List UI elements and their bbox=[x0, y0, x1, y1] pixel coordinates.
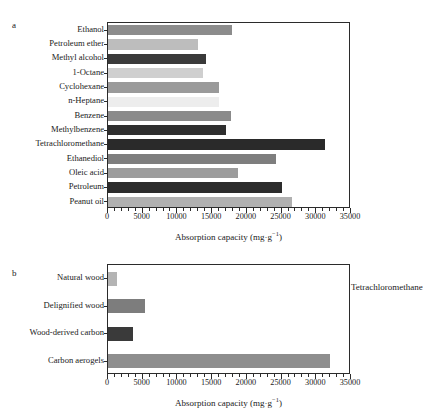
bar-row bbox=[108, 272, 349, 286]
category-label: Natural wood bbox=[57, 273, 104, 282]
x-axis-tick-label: 25000 bbox=[270, 379, 290, 387]
x-axis-tick-label: 20000 bbox=[236, 213, 256, 221]
bar-row bbox=[108, 111, 349, 121]
x-axis-minor-tick bbox=[183, 374, 184, 377]
x-axis-minor-tick bbox=[288, 374, 289, 377]
x-axis-minor-tick bbox=[239, 208, 240, 211]
bar-row bbox=[108, 68, 349, 78]
panel-b-x-axis-title-exponent: −1 bbox=[272, 396, 279, 403]
x-axis-minor-tick bbox=[149, 374, 150, 377]
bar-row bbox=[108, 168, 349, 178]
x-axis-minor-tick bbox=[232, 374, 233, 377]
x-axis-minor-tick bbox=[294, 374, 295, 377]
panel-a-x-axis-title-close: ) bbox=[279, 232, 282, 242]
x-axis-tick-label: 10000 bbox=[166, 379, 186, 387]
category-label: Carbon aerogels bbox=[48, 356, 104, 365]
x-axis-minor-tick bbox=[232, 208, 233, 211]
bar bbox=[108, 197, 292, 207]
x-axis-tick-label: 5000 bbox=[134, 379, 150, 387]
y-axis-tick bbox=[104, 158, 108, 159]
x-axis-minor-tick bbox=[267, 208, 268, 211]
category-label: Peanut oil bbox=[69, 197, 104, 206]
category-label: n-Heptane bbox=[68, 96, 104, 105]
x-axis-tick-label: 35000 bbox=[340, 213, 360, 221]
x-axis-minor-tick bbox=[336, 208, 337, 211]
x-axis-minor-tick bbox=[163, 374, 164, 377]
x-axis-minor-tick bbox=[322, 208, 323, 211]
x-axis-minor-tick bbox=[128, 208, 129, 211]
x-axis-tick-label: 25000 bbox=[270, 213, 290, 221]
bar bbox=[108, 111, 231, 121]
bar bbox=[108, 68, 203, 78]
bar bbox=[108, 97, 219, 107]
x-axis-minor-tick bbox=[183, 208, 184, 211]
x-axis-minor-tick bbox=[121, 374, 122, 377]
panel-b-bars bbox=[108, 265, 349, 373]
y-axis-tick bbox=[104, 173, 108, 174]
x-axis-minor-tick bbox=[274, 208, 275, 211]
x-axis-minor-tick bbox=[149, 208, 150, 211]
category-label: Methyl alcohol bbox=[52, 53, 104, 62]
bar bbox=[108, 154, 276, 164]
x-axis-minor-tick bbox=[301, 374, 302, 377]
x-axis-minor-tick bbox=[197, 208, 198, 211]
x-axis-tick-label: 30000 bbox=[305, 213, 325, 221]
category-label: Oleic acid bbox=[69, 168, 104, 177]
bar bbox=[108, 82, 219, 92]
x-axis-minor-tick bbox=[329, 374, 330, 377]
bar-row bbox=[108, 82, 349, 92]
x-axis-minor-tick bbox=[253, 208, 254, 211]
category-label: Wood-derived carbon bbox=[30, 328, 104, 337]
bar-row bbox=[108, 97, 349, 107]
bar bbox=[108, 182, 282, 192]
x-axis-minor-tick bbox=[163, 208, 164, 211]
category-label: Benzene bbox=[74, 111, 104, 120]
panel-b: b Natural woodDelignified woodWood-deriv… bbox=[0, 252, 383, 413]
x-axis-tick-label: 15000 bbox=[201, 379, 221, 387]
category-label: 1-Octane bbox=[73, 68, 105, 77]
x-axis-minor-tick bbox=[260, 374, 261, 377]
bar bbox=[108, 39, 198, 49]
x-axis-minor-tick bbox=[239, 374, 240, 377]
y-axis-tick bbox=[104, 58, 108, 59]
y-axis-tick bbox=[104, 30, 108, 31]
x-axis-minor-tick bbox=[260, 208, 261, 211]
panel-a-x-axis-title: Absorption capacity (mg·g−1) bbox=[107, 231, 350, 242]
panel-b-x-axis-title-main: Absorption capacity (mg·g bbox=[175, 398, 272, 408]
category-label: Petroleum ether bbox=[49, 39, 104, 48]
bar-row bbox=[108, 299, 349, 313]
x-axis-minor-tick bbox=[343, 208, 344, 211]
bar bbox=[108, 327, 133, 341]
x-axis-minor-tick bbox=[204, 374, 205, 377]
x-axis-minor-tick bbox=[267, 374, 268, 377]
x-axis-minor-tick bbox=[218, 374, 219, 377]
y-axis-tick bbox=[104, 44, 108, 45]
x-axis-minor-tick bbox=[343, 374, 344, 377]
category-label: Delignified wood bbox=[44, 301, 104, 310]
x-axis-minor-tick bbox=[253, 374, 254, 377]
panel-a-x-axis-labels: 05000100001500020000250003000035000 bbox=[0, 213, 383, 225]
y-axis-tick bbox=[104, 130, 108, 131]
x-axis-tick-label: 0 bbox=[105, 213, 109, 221]
bar-row bbox=[108, 354, 349, 368]
bar bbox=[108, 125, 226, 135]
y-axis-tick bbox=[104, 278, 108, 279]
panel-b-category-labels: Natural woodDelignified woodWood-derived… bbox=[0, 264, 104, 374]
x-axis-minor-tick bbox=[336, 374, 337, 377]
panel-a: a EthanolPetroleum etherMethyl alcohol1-… bbox=[0, 0, 383, 252]
x-axis-minor-tick bbox=[197, 374, 198, 377]
y-axis-tick bbox=[104, 187, 108, 188]
y-axis-tick bbox=[104, 116, 108, 117]
y-axis-tick bbox=[104, 144, 108, 145]
bar-row bbox=[108, 139, 349, 149]
x-axis-minor-tick bbox=[225, 208, 226, 211]
y-axis-tick bbox=[104, 201, 108, 202]
x-axis-tick-label: 10000 bbox=[166, 213, 186, 221]
panel-a-x-axis-title-exponent: −1 bbox=[272, 230, 279, 237]
category-label: Tetrachloromethane bbox=[35, 139, 104, 148]
x-axis-minor-tick bbox=[169, 208, 170, 211]
y-axis-tick bbox=[104, 333, 108, 334]
y-axis-tick bbox=[104, 101, 108, 102]
category-label: Petroleum bbox=[69, 182, 104, 191]
